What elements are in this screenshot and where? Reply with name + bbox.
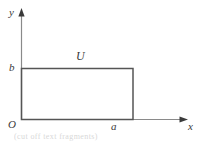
y-axis-label: y: [9, 7, 14, 18]
y-axis-arrowhead: [18, 8, 24, 17]
y-tick-label-b: b: [9, 62, 15, 73]
x-axis-arrowhead: [180, 116, 189, 122]
caption-text: (cut off text fragments): [14, 133, 199, 142]
region-label-u: U: [76, 50, 85, 62]
x-axis-label: x: [188, 121, 193, 132]
x-tick-label-a: a: [111, 121, 117, 132]
coordinate-diagram-svg: [0, 0, 199, 143]
figure-container: y x b O a U (cut off text fragments): [0, 0, 199, 143]
region-rectangle-u: [22, 69, 134, 120]
caption-strip: (cut off text fragments): [0, 133, 199, 143]
origin-label: O: [8, 119, 16, 130]
